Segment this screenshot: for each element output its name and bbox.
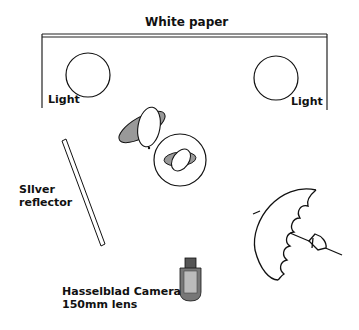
camera-label-line1: Hasselblad Camera <box>62 286 181 298</box>
light-left-label: Light <box>48 94 80 106</box>
camera-icon <box>180 258 201 301</box>
silver-reflector-icon <box>62 139 105 246</box>
camera-label-line2: 150mm lens <box>62 299 137 311</box>
diagram-title: White paper <box>145 16 228 28</box>
lighting-diagram <box>0 0 359 330</box>
subject-circle-icon <box>154 134 206 186</box>
umbrella-light-icon <box>253 189 342 280</box>
reflector-label-line1: SIlver <box>19 184 55 196</box>
light-right-label: Light <box>291 96 323 108</box>
light-right-icon <box>254 56 298 100</box>
reflector-label-line2: reflector <box>19 197 72 209</box>
light-left-icon <box>66 53 110 97</box>
